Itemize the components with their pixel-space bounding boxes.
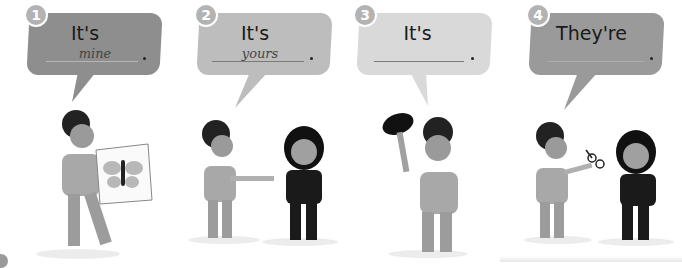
- full-stop: [650, 57, 653, 60]
- prompt-phrase: It's: [340, 22, 495, 44]
- full-stop: [310, 57, 313, 60]
- boy-with-butterfly-illustration: [0, 102, 170, 262]
- page-bottom-edge: [500, 256, 682, 262]
- exercise-item-3: 3 It's: [340, 0, 510, 262]
- exercise-item-4: 4 They're: [510, 0, 682, 262]
- full-stop: [143, 57, 146, 60]
- boy-and-girl-exchange-illustration: [170, 102, 340, 262]
- exercise-item-1: 1 It's mine: [0, 0, 170, 262]
- answer-blank[interactable]: [46, 61, 138, 62]
- exercise-item-2: 2 It's yours: [170, 0, 340, 262]
- answer-text: mine: [45, 46, 145, 61]
- prompt-phrase: They're: [514, 22, 669, 44]
- full-stop: [471, 57, 474, 60]
- prompt-phrase: It's: [10, 22, 160, 44]
- answer-blank[interactable]: [374, 61, 464, 62]
- answer-blank[interactable]: [548, 61, 644, 62]
- boy-and-girl-glasses-illustration: [510, 102, 682, 262]
- prompt-phrase: It's: [180, 22, 330, 44]
- answer-text: yours: [210, 46, 310, 61]
- page-corner-decoration: [0, 254, 8, 268]
- boy-with-cap-illustration: [340, 102, 510, 262]
- answer-blank[interactable]: [212, 61, 304, 62]
